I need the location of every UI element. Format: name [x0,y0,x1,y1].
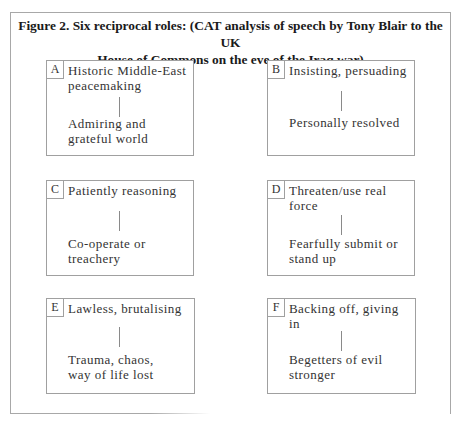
figure-frame-right-border [450,12,451,414]
role-letter-a: A [46,60,64,79]
role-f-bottom-pole: Begetters of evil stronger [289,353,383,382]
role-d-top-pole: Threaten/use real force [289,184,387,213]
role-box-b: B Insisting, persuading Personally resol… [267,60,415,156]
role-box-e: E Lawless, brutalising Trauma, chaos, wa… [46,298,195,394]
role-letter-b: B [267,60,285,79]
role-b-bottom-pole: Personally resolved [289,116,400,131]
role-f-connector-line [341,331,342,351]
role-a-top-pole: Historic Middle-East peacemaking [68,64,186,93]
role-d-connector-line [341,215,342,235]
figure-frame-bottom-border [10,413,210,414]
role-b-top-pole: Insisting, persuading [289,64,407,79]
role-c-connector-line [119,211,120,231]
role-e-top-pole: Lawless, brutalising [68,302,182,317]
role-box-c: C Patiently reasoning Co-operate or trea… [46,180,194,276]
role-b-connector-line [341,91,342,111]
role-f-top-pole: Backing off, giving in [289,302,399,331]
role-a-bottom-pole: Admiring and grateful world [68,117,148,146]
role-box-a: A Historic Middle-East peacemaking Admir… [46,60,194,156]
figure-frame-top-border [10,12,451,13]
role-letter-c: C [46,180,64,199]
role-letter-e: E [46,298,64,317]
role-letter-f: F [267,298,285,317]
role-d-bottom-pole: Fearfully submit or stand up [289,237,398,266]
role-e-connector-line [119,327,120,347]
role-box-d: D Threaten/use real force Fearfully subm… [267,180,415,276]
role-box-f: F Backing off, giving in Begetters of ev… [267,298,416,394]
role-a-connector-line [119,97,120,117]
role-c-top-pole: Patiently reasoning [68,184,177,199]
figure-title-line-1: Figure 2. Six reciprocal roles: (CAT ana… [12,17,449,51]
role-e-bottom-pole: Trauma, chaos, way of life lost [68,353,154,382]
figure-frame-left-border [10,12,11,413]
role-c-bottom-pole: Co-operate or treachery [68,237,146,266]
role-letter-d: D [267,180,285,199]
